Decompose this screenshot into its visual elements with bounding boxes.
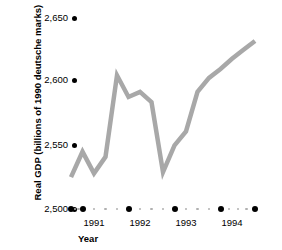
x-axis-minor-dot: [196, 208, 199, 211]
x-axis-title: Year: [78, 233, 98, 244]
x-axis-minor-dot: [245, 208, 248, 211]
x-axis-major-dot: [218, 206, 224, 212]
gdp-line-series: [0, 0, 282, 250]
gdp-line-path: [71, 41, 255, 177]
x-axis-major-dot: [252, 206, 258, 212]
x-axis-major-dot: [126, 206, 132, 212]
x-axis-major-dot: [80, 206, 86, 212]
gdp-line-chart: Real GDP (billions of 1990 deutsche mark…: [0, 0, 282, 250]
x-axis-minor-dot: [150, 208, 153, 211]
x-tick-label-1991: 1991: [71, 217, 117, 228]
x-tick-label-1992: 1992: [117, 217, 163, 228]
x-tick-label-1993: 1993: [163, 217, 209, 228]
x-axis-major-dot: [172, 206, 178, 212]
x-tick-label-1994: 1994: [209, 217, 255, 228]
x-axis-minor-dot: [104, 208, 107, 211]
